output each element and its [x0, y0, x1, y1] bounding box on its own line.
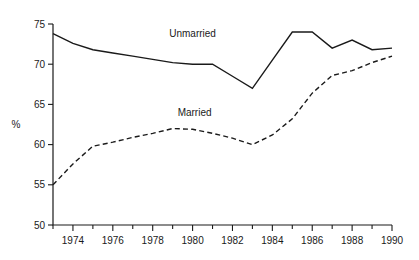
series-line-married — [53, 56, 392, 185]
x-axis-tick-label: 1984 — [261, 235, 284, 246]
line-chart: 505560657075%197419761978198019821984198… — [0, 0, 419, 260]
x-axis-tick-label: 1986 — [301, 235, 324, 246]
x-axis-tick-label: 1988 — [341, 235, 364, 246]
x-axis-tick-label: 1974 — [62, 235, 85, 246]
y-axis-tick-label: 65 — [34, 99, 46, 110]
x-axis-tick-label: 1980 — [181, 235, 204, 246]
x-axis-tick-label: 1978 — [142, 235, 165, 246]
chart-container: 505560657075%197419761978198019821984198… — [0, 0, 419, 260]
y-axis-tick-label: 70 — [34, 59, 46, 70]
x-axis-tick-label: 1990 — [381, 235, 404, 246]
y-axis-tick-label: 55 — [34, 179, 46, 190]
y-axis-tick-label: 75 — [34, 19, 46, 30]
axis-lines — [53, 24, 392, 225]
series-annotation-married: Married — [178, 107, 212, 118]
x-axis-tick-label: 1976 — [102, 235, 125, 246]
y-axis-tick-label: 50 — [34, 220, 46, 231]
x-axis-tick-label: 1982 — [221, 235, 244, 246]
series-annotation-unmarried: Unmarried — [169, 28, 216, 39]
y-axis-tick-label: 60 — [34, 139, 46, 150]
y-axis-label: % — [12, 119, 21, 130]
series-line-unmarried — [53, 32, 392, 88]
